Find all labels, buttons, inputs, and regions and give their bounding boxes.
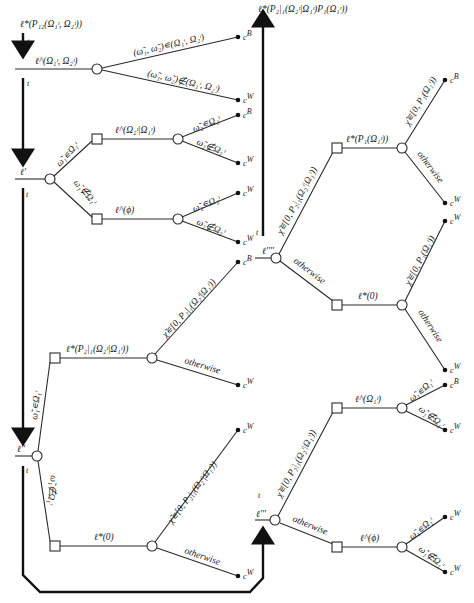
seq-upper-decision-node [92, 134, 102, 144]
root-cost-label: ℓ^(Ω₁ᶦ, Ω₂ᶦ) [35, 56, 77, 67]
ex-chance-node [32, 451, 42, 461]
outcome-label: cW [243, 155, 255, 168]
seq-lower-chance-node [173, 214, 183, 224]
r3-upper-decision-node [332, 403, 342, 413]
root-branch-2-label: (ω̃₁, ω̃₂)∉(Ω₁ᶦ, Ω₂ᶦ) [146, 68, 220, 95]
terminal-node [236, 574, 241, 579]
terminal-node [443, 428, 448, 433]
r3-upper-chance-node [397, 403, 407, 413]
terminal-node [236, 161, 241, 166]
r3-chance-node [270, 515, 280, 525]
ex-upper-branch-1-label: χ̃∊[0, P₂|₁(Ω₂ᶦ|Ω₁ᶦ)) [159, 277, 218, 341]
terminal-node [236, 191, 241, 196]
r3-branch-out-label: otherwise [291, 514, 329, 537]
r3-lower-chance-node [397, 542, 407, 552]
ex-lower-cost-label: ℓ*(0) [94, 532, 114, 543]
seq-lower-branch-1-label: ω̃₂∊Ω₂ᶦ [191, 193, 223, 214]
root-branch-1-label: (ω̃₁, ω̃₂)∊(Ω₁ᶦ, Ω₂ᶦ) [132, 32, 205, 59]
r3-lower-cost-label: ℓ^(ϕ) [360, 533, 379, 544]
ex-lower-branch-1-label: χ̃∊[0, P₂|₁(Ω₂ᶦ|Ω₁ᶦ)) [165, 459, 219, 526]
seq-upper-chance-node [173, 134, 183, 144]
top-right-cost-label: ℓ*(P₂|₁(Ω₂ᶦ|Ω₁ᶦ)P₁(Ω₁ᶦ)) [258, 4, 347, 15]
ex-lower-decision-node [50, 541, 60, 551]
seq-upper-branch-2-label: ω̃₂∉Ω₂ᶦ [195, 137, 228, 158]
terminal-node [443, 219, 448, 224]
r4-upper-cost-label: ℓ*(P₁(Ω₁ᶦ)) [346, 134, 388, 145]
terminal-node [236, 113, 241, 118]
r3-upper-cost-label: ℓ^(Ω₁ᶦ) [355, 394, 381, 405]
ex-node-label: ℓ'' [17, 444, 26, 454]
r4-upper-decision-node [332, 143, 342, 153]
terminal-node [236, 428, 241, 433]
outcome-label: cW [243, 92, 255, 105]
r4-lower-branch-1-label: χ̃∊[0, P₁(Ω₁ᶦ)) [402, 234, 437, 289]
ex-upper-branch-2-label: otherwise [183, 355, 221, 375]
terminal-node [443, 368, 448, 373]
decision-tree-diagram: ℓ*(P₁₂(Ω₁ᶦ, Ω₂ᶦ)) t ℓ^(Ω₁ᶦ, Ω₂ᶦ) (ω̃₁, ω… [0, 0, 474, 603]
seq-upper-cost-label: ℓ^(Ω₂ᶦ|Ω₁ᶦ) [115, 125, 155, 136]
seq-node-label: ℓ' [20, 167, 27, 177]
seq-lower-cost-label: ℓ^(ϕ) [115, 205, 134, 216]
outcome-label: cB [243, 107, 252, 120]
r3-lower-decision-node [332, 542, 342, 552]
ex-upper-decision-node [50, 353, 60, 363]
ex-branch-out-label: ω̃₁∉Ω₁ᶦ [46, 475, 59, 507]
seq-node-time: t [26, 190, 29, 199]
outcome-label: cB [450, 377, 459, 390]
top-left-cost-label: ℓ*(P₁₂(Ω₁ᶦ, Ω₂ᶦ)) [20, 19, 82, 30]
root-chance-node [92, 64, 102, 74]
terminal-node [236, 260, 241, 265]
terminal-node [443, 78, 448, 83]
ex-upper-cost-label: ℓ*(P₂|₁(Ω₂ᶦ|Ω₁ᶦ)) [66, 344, 128, 355]
terminal-node [236, 383, 241, 388]
ex-branch-in-label: ω̃₁∊Ω₁ᶦ [29, 389, 42, 420]
seq-lower-decision-node [92, 214, 102, 224]
outcome-label: cW [243, 185, 255, 198]
r4-lower-branch-1 [405, 221, 445, 301]
r3-lower-branch-1-label: ω̃₁∊Ω₁ᶦ [407, 514, 437, 541]
r4-upper-chance-node [397, 143, 407, 153]
outcome-label: cW [450, 362, 462, 375]
right-up-time-label: t [256, 228, 259, 237]
bottom-loop-arrow [23, 466, 263, 592]
terminal-node [443, 515, 448, 520]
top-left-time-label: t [27, 37, 30, 46]
ex-upper-branch-1 [155, 262, 238, 354]
outcome-label: cB [450, 72, 459, 85]
outcome-label: cB [243, 254, 252, 267]
outcome-label: cB [243, 29, 252, 42]
terminal-node [236, 98, 241, 103]
terminal-node [443, 201, 448, 206]
r3-lower-branch-2-label: ω̃₁∉Ω₁ᶦ [417, 544, 448, 571]
r4-upper-branch-2-label: otherwise [415, 149, 445, 185]
seq-lower-branch-2-label: ω̃₂∉Ω₂ᶦ [195, 217, 228, 238]
r4-lower-decision-node [332, 300, 342, 310]
r4-chance-node [271, 253, 281, 263]
outcome-label: cW [243, 568, 255, 581]
outcome-label: cW [243, 422, 255, 435]
r3-upper-branch-1-label: ω̃₁∊Ω₁ᶦ [407, 376, 437, 403]
r4-lower-branch-2-label: otherwise [416, 308, 445, 344]
seq-upper-branch-1-label: ω̃₂∊Ω₂ᶦ [191, 113, 223, 134]
r4-branch-in-label: χ̃∊[0, P₂|₁(Ω₂ᶦ|Ω₁ᶦ)) [274, 165, 319, 237]
r4-branch-in [279, 152, 333, 254]
left-mid-time-label: t [27, 79, 30, 88]
terminal-node [443, 570, 448, 575]
r3-branch-in-label: χ̃∊[0, P₂|₁(Ω₂ᶦ|Ω₁ᶦ)) [273, 428, 318, 500]
ex-lower-chance-node [147, 541, 157, 551]
outcome-label: cW [450, 564, 462, 577]
seq-branch-out-label: ω̃₁∉Ω₁ᶦ [72, 178, 100, 208]
r4-lower-chance-node [397, 300, 407, 310]
r3-node-time: t [258, 491, 261, 500]
terminal-node [236, 35, 241, 40]
r4-lower-cost-label: ℓ*(0) [358, 291, 378, 302]
terminal-node [443, 383, 448, 388]
r3-node-label: ℓ''' [256, 509, 267, 519]
outcome-label: cW [450, 509, 462, 522]
ex-upper-chance-node [147, 353, 157, 363]
terminal-node [236, 240, 241, 245]
outcome-label: cW [450, 213, 462, 226]
r3-branch-in [278, 412, 333, 516]
outcome-label: cW [450, 422, 462, 435]
outcome-label: cW [450, 195, 462, 208]
